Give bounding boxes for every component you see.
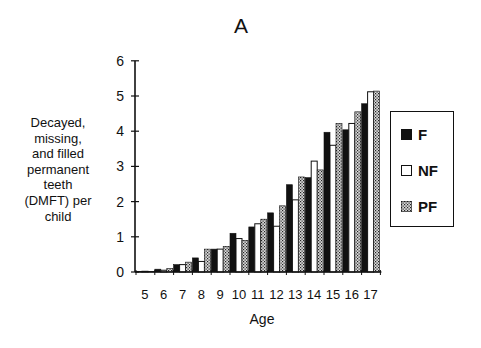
- y-tick-label: 4: [116, 123, 124, 139]
- x-tick-label: 16: [344, 287, 358, 302]
- bar-f-age-7: [174, 265, 180, 272]
- x-tick-label: 9: [216, 287, 223, 302]
- bar-nf-age-10: [236, 239, 242, 272]
- bar-pf-age-16: [355, 112, 361, 272]
- legend-label: F: [418, 126, 427, 143]
- bar-f-age-12: [268, 213, 274, 272]
- bar-pf-age-11: [261, 219, 267, 272]
- y-tick-label: 5: [116, 88, 124, 104]
- bar-pf-age-14: [317, 170, 323, 272]
- legend-item-pf: PF: [401, 198, 437, 215]
- bar-f-age-17: [362, 104, 368, 272]
- x-tick-label: 14: [307, 287, 321, 302]
- legend-label: NF: [418, 162, 438, 179]
- x-axis-label: Age: [242, 311, 282, 327]
- bar-f-age-15: [324, 132, 330, 272]
- bar-nf-age-9: [217, 249, 223, 272]
- bar-nf-age-11: [255, 224, 261, 272]
- x-tick-label: 15: [326, 287, 340, 302]
- bar-series-group: [136, 91, 380, 272]
- x-tick-label: 17: [363, 287, 377, 302]
- bar-pf-age-12: [280, 206, 286, 272]
- bar-f-age-10: [230, 233, 236, 272]
- bar-pf-age-10: [242, 240, 248, 272]
- bar-f-age-11: [249, 227, 255, 272]
- bar-f-age-8: [192, 258, 198, 272]
- y-tick-label: 2: [116, 194, 124, 210]
- legend-item-nf: NF: [401, 162, 438, 179]
- bar-pf-age-13: [298, 177, 304, 272]
- bar-nf-age-16: [349, 123, 355, 272]
- x-tick-label: 13: [288, 287, 302, 302]
- bar-nf-age-15: [330, 145, 336, 272]
- bar-pf-age-9: [223, 246, 229, 272]
- bar-f-age-16: [343, 130, 349, 272]
- x-tick-label: 12: [269, 287, 283, 302]
- y-tick-label: 0: [116, 264, 124, 280]
- bar-pf-age-17: [374, 91, 380, 272]
- bar-nf-age-17: [368, 92, 374, 272]
- x-tick-label: 5: [141, 287, 148, 302]
- legend: F NF PF: [390, 111, 454, 227]
- bar-pf-age-15: [336, 123, 342, 272]
- x-tick-label: 10: [232, 287, 246, 302]
- bar-pf-age-8: [204, 249, 210, 272]
- x-tick-label: 6: [160, 287, 167, 302]
- bar-nf-age-7: [180, 265, 186, 272]
- bar-nf-age-12: [274, 226, 280, 272]
- bar-pf-age-7: [186, 262, 192, 272]
- legend-item-f: F: [401, 126, 427, 143]
- y-tick-label: 3: [116, 158, 124, 174]
- legend-swatch-solid-icon: [401, 129, 412, 140]
- x-tick-label: 11: [251, 287, 265, 302]
- x-tick-label: 8: [198, 287, 205, 302]
- x-tick-label: 7: [179, 287, 186, 302]
- bar-nf-age-8: [198, 261, 204, 272]
- y-tick-label: 1: [116, 229, 124, 245]
- bar-f-age-13: [286, 185, 292, 272]
- legend-label: PF: [418, 198, 437, 215]
- bar-f-age-9: [211, 249, 217, 272]
- bar-f-age-14: [305, 178, 311, 272]
- bar-nf-age-14: [311, 161, 317, 272]
- y-tick-label: 6: [116, 53, 124, 69]
- legend-swatch-outline-icon: [401, 165, 412, 176]
- dmft-bar-chart: A Decayed, missing, and filled permanent…: [0, 0, 481, 348]
- bar-nf-age-13: [292, 200, 298, 272]
- legend-swatch-stipple-icon: [401, 201, 412, 212]
